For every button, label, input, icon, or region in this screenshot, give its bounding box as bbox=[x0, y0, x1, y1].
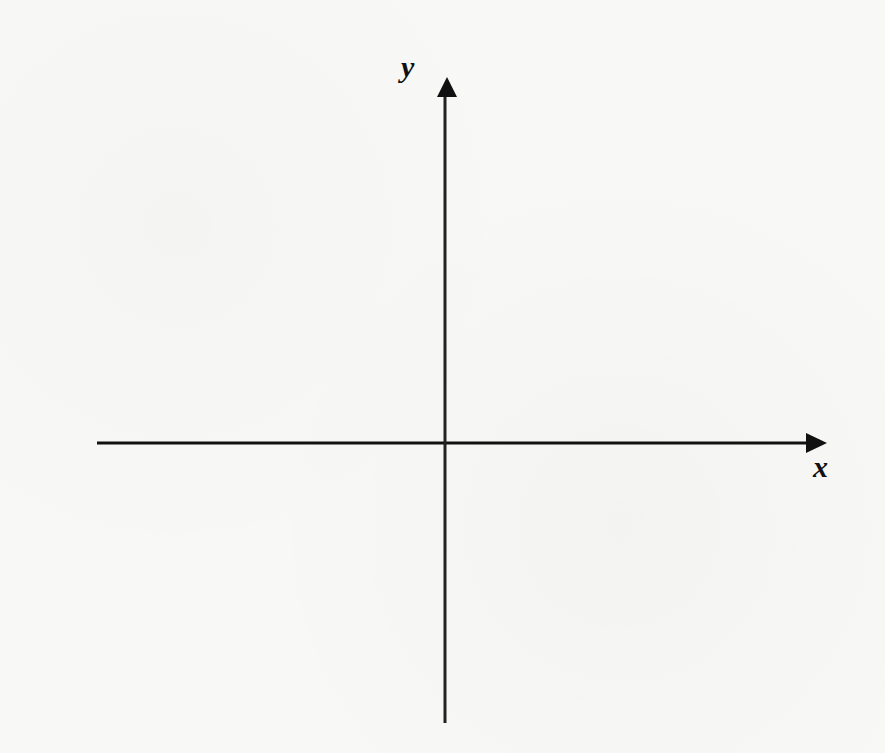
y-axis-arrow-icon bbox=[437, 77, 457, 97]
x-axis-label: x bbox=[813, 452, 828, 482]
y-axis bbox=[437, 77, 457, 723]
diagram-canvas: y x bbox=[0, 0, 885, 753]
x-axis bbox=[97, 433, 827, 453]
y-axis-label: y bbox=[401, 52, 414, 82]
coordinate-axes bbox=[0, 0, 885, 753]
